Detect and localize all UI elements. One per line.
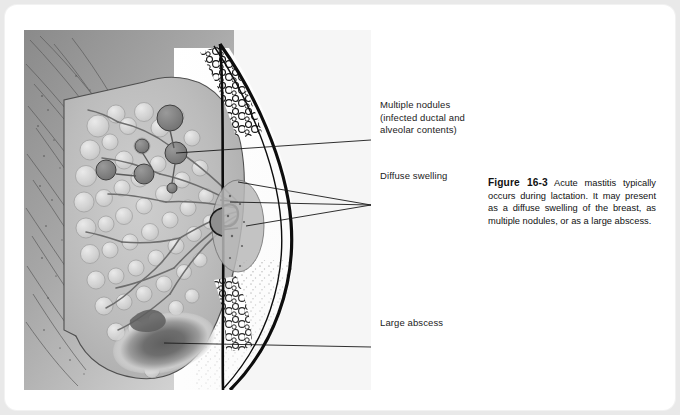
figure-caption: Figure 16-3 Acute mastitis typically occ… bbox=[488, 177, 656, 227]
callout-multiple-nodules: Multiple nodules (infected ductal and al… bbox=[380, 99, 465, 137]
figure-card: Multiple nodules (infected ductal and al… bbox=[5, 5, 675, 410]
callout-diffuse-swelling: Diffuse swelling bbox=[380, 170, 447, 183]
breast-cross-section-illustration bbox=[24, 30, 371, 390]
illustration-panel bbox=[24, 30, 371, 390]
callout-large-abscess: Large abscess bbox=[380, 317, 443, 330]
figure-number: Figure 16-3 bbox=[488, 177, 548, 188]
